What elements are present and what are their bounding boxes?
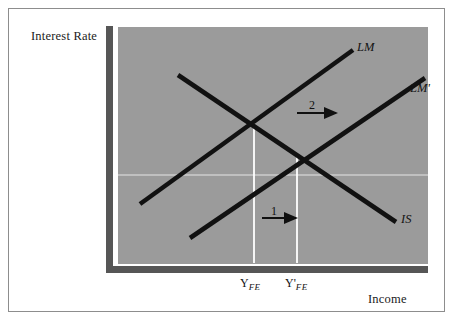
x-axis-label: Income <box>368 292 407 307</box>
tick-yfep-base: Y <box>285 276 294 290</box>
tick-yfe-base: Y <box>240 276 249 290</box>
y-axis-label: Interest Rate <box>31 29 97 44</box>
plot-area <box>118 27 428 264</box>
curve-label-is: IS <box>401 212 411 227</box>
tick-label-yfe: YFE <box>240 276 260 292</box>
y-axis <box>106 26 113 273</box>
arrow-2-label: 2 <box>309 98 315 113</box>
curve-label-lm: LM <box>357 40 374 55</box>
tick-yfep-subscript: FE <box>296 282 308 292</box>
tick-yfe-subscript: FE <box>249 282 261 292</box>
curve-label-lm-prime: LM' <box>410 81 430 96</box>
arrow-1-label: 1 <box>271 204 277 219</box>
islm-figure: Interest Rate Income LM LM' IS YFE Y'FE … <box>0 0 458 332</box>
tick-label-yfe-prime: Y'FE <box>285 276 307 292</box>
x-axis <box>106 266 428 273</box>
